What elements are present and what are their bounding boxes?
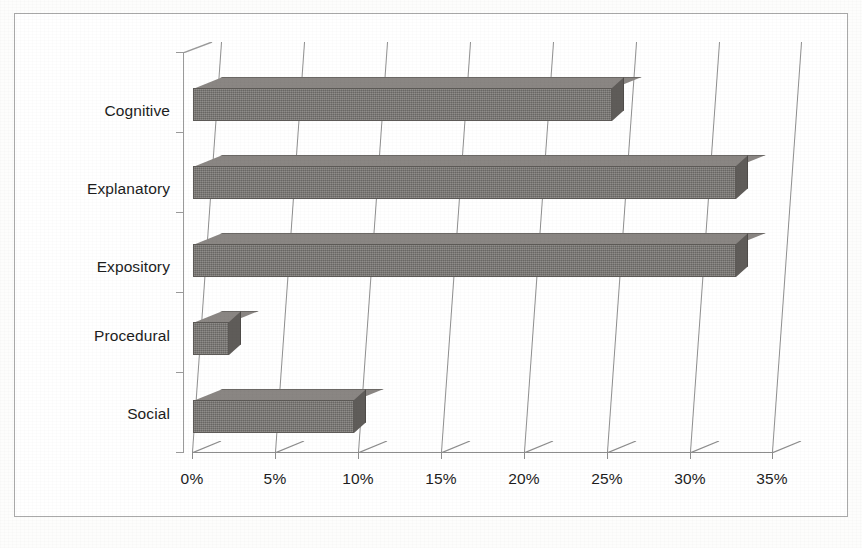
y-axis-line [183,52,184,452]
bar-front-face [193,322,229,355]
x-axis-tick-5 [275,452,276,459]
x-axis-label-5: 5% [245,470,305,488]
x-axis-tick-25 [607,452,608,459]
bar-expository [193,233,736,266]
x-axis-tick-15 [441,452,442,459]
bar-front-face [193,166,736,199]
floor-depth-edge-35 [772,441,802,453]
bar-front-face [193,88,612,121]
floor-depth-edge-0 [192,441,222,453]
x-axis-label-25: 25% [577,470,637,488]
bar-cognitive [193,77,612,110]
bar-front-face [193,400,354,433]
gridline-35 [772,42,802,452]
x-axis-tick-10 [358,452,359,459]
floor-depth-edge-25 [607,441,637,453]
y-axis-label-social: Social [0,405,170,423]
floor-depth-edge-30 [690,441,720,453]
bar-explanatory [193,155,736,188]
x-axis-label-0: 0% [162,470,222,488]
x-axis-tick-30 [690,452,691,459]
y-axis-label-explanatory: Explanatory [0,180,170,198]
x-axis-tick-0 [192,452,193,459]
y-axis-tick-1 [176,132,184,133]
floor-depth-edge-10 [358,441,388,453]
axis-depth-edge-top [183,42,213,53]
x-axis-label-35: 35% [742,470,802,488]
bar-social [193,389,354,422]
x-axis-label-20: 20% [494,470,554,488]
y-axis-tick-3 [176,292,184,293]
x-axis-label-10: 10% [328,470,388,488]
y-axis-tick-2 [176,212,184,213]
floor-depth-edge-20 [524,441,554,453]
y-axis-label-procedural: Procedural [0,327,170,345]
scanned-page: Cognitive Explanatory Expository Procedu… [0,0,862,548]
y-axis-tick-5 [176,452,184,453]
y-axis-label-cognitive: Cognitive [0,102,170,120]
chart-plot-area: Cognitive Explanatory Expository Procedu… [0,0,862,548]
x-axis-tick-35 [772,452,773,459]
y-axis-tick-4 [176,372,184,373]
floor-depth-edge-15 [441,441,471,453]
floor-depth-edge-5 [275,441,305,453]
bar-procedural [193,311,229,344]
x-axis-label-15: 15% [411,470,471,488]
x-axis-label-30: 30% [660,470,720,488]
y-axis-label-expository: Expository [0,258,170,276]
bar-front-face [193,244,736,277]
x-axis-tick-20 [524,452,525,459]
y-axis-tick-0 [176,52,184,53]
